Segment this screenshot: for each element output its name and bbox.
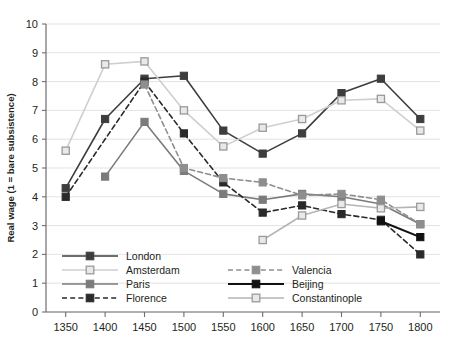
data-point-constantinople-1800	[417, 203, 424, 210]
legend-label-valencia: Valencia	[292, 264, 332, 276]
data-point-valencia-1800	[417, 221, 424, 228]
data-point-london-1700	[338, 90, 345, 97]
data-point-constantinople-1750	[377, 205, 384, 212]
series-line-london	[66, 76, 421, 188]
series-amsterdam	[62, 58, 424, 155]
y-tick-label-10: 10	[26, 18, 38, 30]
data-point-london-1550	[220, 127, 227, 134]
y-tick-label-5: 5	[32, 162, 38, 174]
legend-marker-valencia	[252, 266, 260, 274]
x-tick-label-1600: 1600	[250, 321, 274, 333]
y-axis	[42, 24, 46, 312]
series-line-beijing	[381, 221, 420, 237]
y-tick-label-8: 8	[32, 76, 38, 88]
data-point-constantinople-1650	[299, 212, 306, 219]
legend-marker-paris	[86, 280, 94, 288]
x-tick-label-1650: 1650	[290, 321, 314, 333]
chart-container: 0123456789101350140014501500155016001650…	[0, 0, 452, 361]
y-tick-label-1: 1	[32, 277, 38, 289]
legend-item-london[interactable]: London	[62, 250, 161, 262]
data-point-valencia-1500	[180, 164, 187, 171]
data-point-constantinople-1600	[259, 236, 266, 243]
data-point-beijing-1750	[377, 218, 384, 225]
data-point-florence-1700	[338, 211, 345, 218]
data-point-amsterdam-1650	[299, 115, 306, 122]
data-point-amsterdam-1700	[338, 97, 345, 104]
y-tick-label-6: 6	[32, 133, 38, 145]
legend-label-constantinople: Constantinople	[292, 292, 362, 304]
data-point-london-1350	[62, 185, 69, 192]
x-tick-label-1350: 1350	[53, 321, 77, 333]
legend-label-paris: Paris	[126, 278, 150, 290]
legend-label-florence: Florence	[126, 292, 167, 304]
data-point-amsterdam-1800	[417, 127, 424, 134]
y-tick-label-7: 7	[32, 104, 38, 116]
x-tick-label-1400: 1400	[93, 321, 117, 333]
data-point-amsterdam-1350	[62, 147, 69, 154]
data-point-amsterdam-1400	[102, 61, 109, 68]
x-tick-label-1750: 1750	[369, 321, 393, 333]
series-group	[62, 58, 424, 258]
y-axis-title: Real wage (1 = bare subsistence)	[5, 93, 16, 242]
legend-label-beijing: Beijing	[292, 278, 324, 290]
y-tick-label-2: 2	[32, 248, 38, 260]
data-point-london-1600	[259, 150, 266, 157]
legend: LondonAmsterdamParisFlorenceValenciaBeij…	[62, 250, 362, 304]
data-point-paris-1450	[141, 118, 148, 125]
data-point-london-1500	[180, 72, 187, 79]
x-tick-label-1450: 1450	[132, 321, 156, 333]
legend-item-paris[interactable]: Paris	[62, 278, 150, 290]
legend-marker-constantinople	[252, 294, 260, 302]
data-point-valencia-1600	[259, 179, 266, 186]
data-point-london-1400	[102, 115, 109, 122]
legend-label-amsterdam: Amsterdam	[126, 264, 180, 276]
data-point-paris-1400	[102, 173, 109, 180]
data-point-beijing-1800	[417, 234, 424, 241]
data-point-valencia-1650	[299, 192, 306, 199]
data-point-florence-1650	[299, 202, 306, 209]
legend-marker-beijing	[252, 280, 260, 288]
legend-item-beijing[interactable]: Beijing	[228, 278, 324, 290]
data-point-london-1750	[377, 75, 384, 82]
x-tick-label-1800: 1800	[408, 321, 432, 333]
data-point-valencia-1750	[377, 196, 384, 203]
data-point-paris-1550	[220, 190, 227, 197]
data-point-london-1800	[417, 115, 424, 122]
data-point-amsterdam-1750	[377, 95, 384, 102]
series-line-amsterdam	[66, 61, 421, 150]
data-point-florence-1600	[259, 209, 266, 216]
data-point-florence-1800	[417, 251, 424, 258]
data-point-valencia-1550	[220, 175, 227, 182]
legend-item-constantinople[interactable]: Constantinople	[228, 292, 362, 304]
data-point-florence-1350	[62, 193, 69, 200]
data-point-amsterdam-1450	[141, 58, 148, 65]
series-london	[62, 72, 424, 192]
y-tick-label-3: 3	[32, 220, 38, 232]
data-point-paris-1600	[259, 196, 266, 203]
data-point-amsterdam-1550	[220, 143, 227, 150]
legend-item-amsterdam[interactable]: Amsterdam	[62, 264, 180, 276]
x-tick-label-1500: 1500	[172, 321, 196, 333]
y-tick-label-4: 4	[32, 191, 38, 203]
data-point-london-1650	[299, 130, 306, 137]
legend-marker-florence	[86, 294, 94, 302]
y-tick-label-9: 9	[32, 47, 38, 59]
real-wage-line-chart: 0123456789101350140014501500155016001650…	[0, 0, 452, 361]
series-constantinople	[259, 200, 424, 243]
y-tick-label-0: 0	[32, 306, 38, 318]
legend-marker-london	[86, 252, 94, 260]
x-tick-label-1700: 1700	[329, 321, 353, 333]
data-point-valencia-1450	[141, 81, 148, 88]
legend-marker-amsterdam	[86, 266, 94, 274]
data-point-florence-1500	[180, 130, 187, 137]
data-point-constantinople-1700	[338, 200, 345, 207]
data-point-amsterdam-1500	[180, 107, 187, 114]
x-axis	[46, 312, 440, 317]
legend-item-valencia[interactable]: Valencia	[228, 264, 332, 276]
x-tick-label-1550: 1550	[211, 321, 235, 333]
legend-item-florence[interactable]: Florence	[62, 292, 167, 304]
data-point-valencia-1700	[338, 190, 345, 197]
data-point-amsterdam-1600	[259, 124, 266, 131]
legend-label-london: London	[126, 250, 161, 262]
